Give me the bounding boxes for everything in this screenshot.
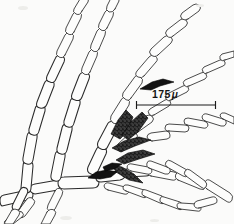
figure-root: 175μ [0, 0, 234, 224]
organism-drawing [0, 0, 234, 224]
scale-bar-unit: μ [172, 89, 178, 100]
scale-bar-group [136, 101, 216, 109]
scale-bar-value: 175 [152, 88, 171, 100]
scale-bar-label: 175μ [152, 88, 178, 100]
upper-right-branch-b-filament [117, 51, 235, 152]
right-branch-filament [147, 113, 234, 141]
upper-mid-branch-filament [51, 0, 119, 181]
spore-cluster-mid-a [112, 137, 151, 152]
